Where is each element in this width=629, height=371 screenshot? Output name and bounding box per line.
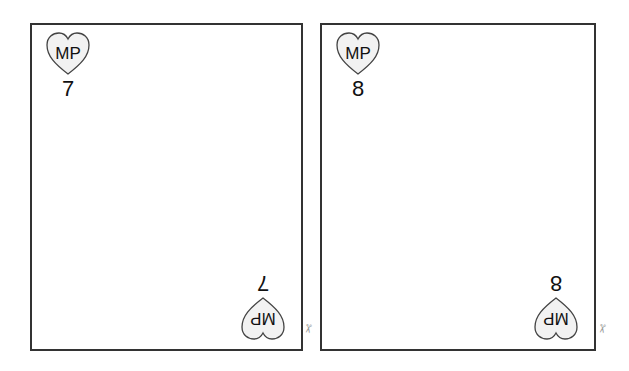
heart-label: MP [240, 308, 286, 328]
heart-label: MP [45, 44, 91, 64]
heart-label: MP [335, 44, 381, 64]
rank-top: 7 [45, 76, 91, 102]
rank-bottom: 8 [533, 270, 579, 296]
heart-icon: MP [240, 295, 286, 341]
heart-icon: MP [335, 31, 381, 77]
heart-label: MP [533, 308, 579, 328]
card-8: MP 8 MP 8 [320, 23, 596, 351]
rank-bottom: 7 [240, 270, 286, 296]
scissors-icon: ✂ [594, 323, 610, 335]
heart-icon: MP [533, 295, 579, 341]
card-7: MP 7 MP 7 [30, 23, 303, 351]
rank-top: 8 [335, 76, 381, 102]
heart-icon: MP [45, 31, 91, 77]
